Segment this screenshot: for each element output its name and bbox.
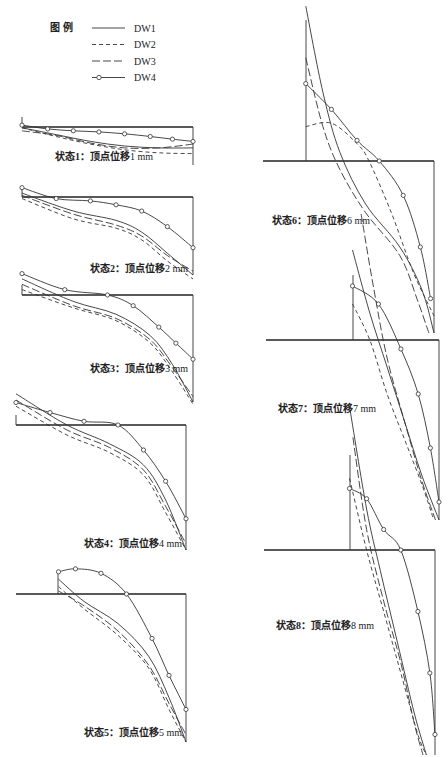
series-dw4-marker: [184, 707, 188, 711]
caption-prefix: 状态4：顶点位移: [84, 537, 159, 549]
series-dw4-marker: [164, 479, 168, 483]
pressure-distribution-chart: 图 例 DW1DW2DW3DW4 状态1：顶点位移1 mm状态2：顶点位移2 m…: [0, 0, 448, 757]
panel-caption: 状态7：顶点位移7 mm: [278, 402, 376, 414]
panel-caption: 状态1：顶点位移1 mm: [55, 150, 153, 162]
series-dw4-line: [22, 274, 193, 360]
series-dw3-line: [22, 195, 193, 271]
series-dw4-line: [306, 84, 431, 299]
series-dw4-marker: [131, 304, 135, 308]
series-dw4-marker: [416, 609, 420, 613]
panel-state-8: 状态8：顶点位移8 mm: [264, 407, 437, 756]
panel-state-5: 状态5：顶点位移5 mm: [16, 567, 188, 742]
series-dw1-line: [350, 407, 427, 756]
series-dw4-marker: [71, 129, 75, 133]
series-dw4-line: [59, 569, 187, 710]
series-dw3-line: [22, 284, 193, 396]
legend-label-dw3: DW3: [134, 56, 156, 67]
series-dw2-line: [16, 406, 186, 550]
series-dw4-marker: [123, 132, 127, 136]
series-dw1-line: [353, 250, 440, 520]
caption-prefix: 状态5：顶点位移: [84, 726, 159, 738]
series-dw4-marker: [433, 732, 437, 736]
panel-caption: 状态2：顶点位移2 mm: [90, 262, 188, 274]
series-dw1-line: [59, 579, 187, 742]
panels: 状态1：顶点位移1 mm状态2：顶点位移2 mm状态3：顶点位移3 mm状态4：…: [14, 6, 441, 755]
series-dw4-marker: [418, 245, 422, 249]
series-dw4-marker: [73, 567, 77, 571]
series-dw4-marker: [88, 199, 92, 203]
series-dw4-marker: [150, 636, 154, 640]
series-dw4-marker: [165, 225, 169, 229]
series-dw4-marker: [304, 82, 308, 86]
panel-state-3: 状态3：顶点位移3 mm: [20, 272, 195, 405]
series-dw4-marker: [20, 123, 24, 127]
caption-prefix: 状态3：顶点位移: [90, 362, 165, 374]
panel-caption: 状态5：顶点位移5 mm: [84, 726, 182, 738]
series-dw4-marker: [184, 517, 188, 521]
series-dw4-marker: [20, 186, 24, 190]
series-dw4-marker: [99, 571, 103, 575]
caption-prefix: 状态8：顶点位移: [276, 619, 351, 631]
series-dw4-marker: [416, 392, 420, 396]
series-dw4-marker: [56, 570, 60, 574]
legend-marker-dw4: [97, 75, 101, 79]
series-dw4-marker: [97, 130, 101, 134]
caption-prefix: 状态2：顶点位移: [90, 262, 165, 274]
panel-state-6: 状态6：顶点位移6 mm: [263, 6, 434, 333]
series-dw4-marker: [140, 209, 144, 213]
series-dw4-marker: [191, 139, 195, 143]
series-dw4-marker: [365, 497, 369, 501]
series-dw4-marker: [114, 203, 118, 207]
legend-title: 图 例: [50, 21, 73, 33]
legend-label-dw1: DW1: [134, 23, 156, 34]
legend-label-dw2: DW2: [134, 39, 156, 50]
series-dw4-marker: [355, 138, 359, 142]
series-dw4-marker: [63, 288, 67, 292]
panel-caption: 状态8：顶点位移8 mm: [276, 619, 374, 631]
series-dw4-marker: [428, 446, 432, 450]
panel-state-1: 状态1：顶点位移1 mm: [20, 117, 195, 165]
series-dw4-line: [16, 403, 186, 519]
series-dw4-marker: [428, 297, 432, 301]
series-dw4-marker: [167, 673, 171, 677]
series-dw4-marker: [116, 423, 120, 427]
panel-state-4: 状态4：顶点位移4 mm: [14, 394, 188, 550]
series-dw4-marker: [124, 592, 128, 596]
series-dw4-marker: [350, 284, 354, 288]
series-dw4-marker: [170, 137, 174, 141]
series-dw4-marker: [54, 196, 58, 200]
caption-value: 5 mm: [159, 727, 182, 738]
series-dw2-line: [59, 587, 187, 742]
series-dw4-marker: [20, 272, 24, 276]
series-dw1-line: [306, 6, 434, 333]
caption-prefix: 状态7：顶点位移: [278, 402, 353, 414]
series-dw4-marker: [399, 548, 403, 552]
series-dw4-marker: [401, 193, 405, 197]
series-dw4-line: [350, 489, 436, 735]
panel-caption: 状态6：顶点位移6 mm: [272, 214, 370, 226]
series-dw4-marker: [148, 134, 152, 138]
series-dw3-line: [22, 131, 193, 149]
series-dw2-line: [22, 290, 193, 405]
caption-value: 6 mm: [347, 215, 370, 226]
series-dw4-marker: [46, 127, 50, 131]
panel-state-7: 状态7：顶点位移7 mm: [266, 214, 441, 520]
series-dw4-marker: [174, 341, 178, 345]
series-dw4-marker: [105, 293, 109, 297]
series-dw4-marker: [428, 671, 432, 675]
caption-value: 7 mm: [353, 403, 376, 414]
series-dw4-marker: [141, 448, 145, 452]
caption-value: 2 mm: [165, 263, 188, 274]
legend: 图 例 DW1DW2DW3DW4: [50, 21, 156, 83]
series-dw4-marker: [191, 246, 195, 250]
series-dw3-line: [59, 591, 187, 735]
caption-prefix: 状态6：顶点位移: [272, 214, 347, 226]
series-dw4-marker: [382, 527, 386, 531]
series-dw4-marker: [399, 347, 403, 351]
series-dw2-line: [22, 128, 193, 154]
panel-state-2: 状态2：顶点位移2 mm: [20, 186, 195, 279]
caption-value: 8 mm: [351, 620, 374, 631]
caption-prefix: 状态1：顶点位移: [55, 150, 130, 162]
caption-value: 3 mm: [165, 363, 188, 374]
series-dw4-marker: [329, 107, 333, 111]
